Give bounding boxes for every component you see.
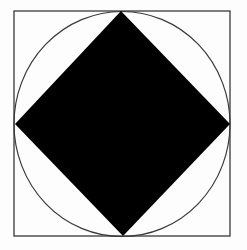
geometry-figure xyxy=(0,0,247,250)
inscribed-diamond xyxy=(15,11,230,236)
diagram-canvas xyxy=(0,0,247,250)
